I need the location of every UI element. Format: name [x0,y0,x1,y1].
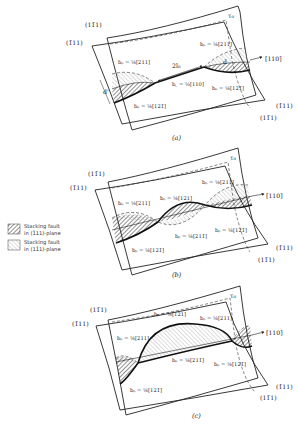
svg-text:bₚ = ⅙[211]: bₚ = ⅙[211] [118,200,150,206]
plane-label-11-1: (11̄1) [85,21,102,28]
svg-text:Stacking fault: Stacking fault [24,239,60,246]
caption-a: (a) [172,134,181,142]
svg-text:τ₀: τ₀ [230,154,236,161]
svg-text:(11̄1): (11̄1) [260,394,277,401]
svg-text:[110]: [110] [266,329,283,336]
legend-swatch-dense [8,224,20,234]
plane-label-right-2: (11̄1) [260,114,277,121]
svg-text:bₚ = ⅙[211]: bₚ = ⅙[211] [117,335,149,341]
svg-text:bₚ = ⅙[211]: bₚ = ⅙[211] [200,315,232,321]
plane-label-neg111: (1̄11) [66,39,83,46]
direction-label: [110] [265,55,282,62]
svg-text:bₚ = ⅙[121̄]: bₚ = ⅙[121̄] [214,361,246,367]
panel-a: (11̄1) (1̄11) [110] (1̄11) (11̄1) τ₀ 2l₀… [66,6,293,142]
stress-label: τ₀ [228,12,234,19]
svg-text:(11̄1): (11̄1) [258,256,275,263]
svg-text:(1̄11): (1̄11) [276,383,293,390]
svg-text:in (1̄11)-plane: in (1̄11)-plane [24,230,61,237]
panel-c: (11̄1) (1̄11) [110] (1̄11) (11̄1) τ₀ bₚ … [72,286,293,420]
dislocation-diagram: (11̄1) (1̄11) [110] (1̄11) (11̄1) τ₀ 2l₀… [0,0,297,428]
svg-text:bₚ = ⅙[211̄]: bₚ = ⅙[211̄] [172,357,204,363]
bc-label: b꜀ = ½[110] [172,81,204,87]
svg-text:(1̄11): (1̄11) [70,184,87,191]
svg-text:(1̄11): (1̄11) [72,320,89,327]
bp-label: bₚ = ⅙[121̄] [134,103,166,109]
panel-b: (11̄1) (1̄11) [110] (1̄11) (11̄1) τ₀ bₚ … [70,148,293,279]
svg-text:bₚ = ⅙[121]: bₚ = ⅙[121] [160,195,192,201]
svg-text:τ₀: τ₀ [230,292,236,299]
svg-text:bₚ = ⅙[211̄]: bₚ = ⅙[211̄] [175,233,207,239]
legend-swatch-light [8,240,20,250]
svg-text:bₚ = ⅙[121̄]: bₚ = ⅙[121̄] [130,387,162,393]
svg-text:bₚ = ⅙[121̄]: bₚ = ⅙[121̄] [132,247,164,253]
svg-text:(11̄1): (11̄1) [90,306,107,313]
svg-text:(1̄11): (1̄11) [276,244,293,251]
bp-label: bₚ = ⅙[211] [200,41,232,47]
svg-text:bₚ = ⅙[121]: bₚ = ⅙[121] [154,311,186,317]
svg-text:bₚ = ⅙[121̄]: bₚ = ⅙[121̄] [215,227,247,233]
svg-text:(11̄1): (11̄1) [88,170,105,177]
bp-label: bₚ = ⅙[211] [118,59,150,65]
bp-label: bₚ = ⅙[121̄] [212,85,244,91]
svg-text:in (11̄1)-plane: in (11̄1)-plane [24,246,61,253]
width-right-label: d [223,58,227,65]
spacing-label: 2l₀ [172,62,181,69]
svg-text:Stacking fault: Stacking fault [24,223,60,230]
plane-label-right-1: (1̄11) [276,102,293,109]
caption-b: (b) [172,271,182,279]
svg-text:bₚ = ⅙[211]: bₚ = ⅙[211] [202,179,234,185]
width-left-label: d' [103,88,109,95]
caption-c: (c) [192,412,201,420]
legend: Stacking fault in (1̄11)-plane Stacking … [8,223,61,253]
svg-text:[110]: [110] [266,192,283,199]
